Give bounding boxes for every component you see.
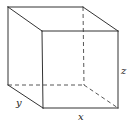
edge-top-left-depth bbox=[8, 7, 42, 31]
label-z: z bbox=[120, 65, 127, 76]
label-x: x bbox=[78, 111, 84, 122]
edge-bottom-right-depth-hidden bbox=[84, 85, 118, 108]
cube-diagram: y x z bbox=[0, 0, 131, 126]
edge-bottom-left-depth bbox=[8, 85, 43, 108]
label-y: y bbox=[15, 97, 22, 108]
edge-front-left bbox=[42, 31, 43, 108]
edge-top-right-depth bbox=[83, 7, 118, 31]
edge-back-right-hidden bbox=[83, 7, 84, 85]
